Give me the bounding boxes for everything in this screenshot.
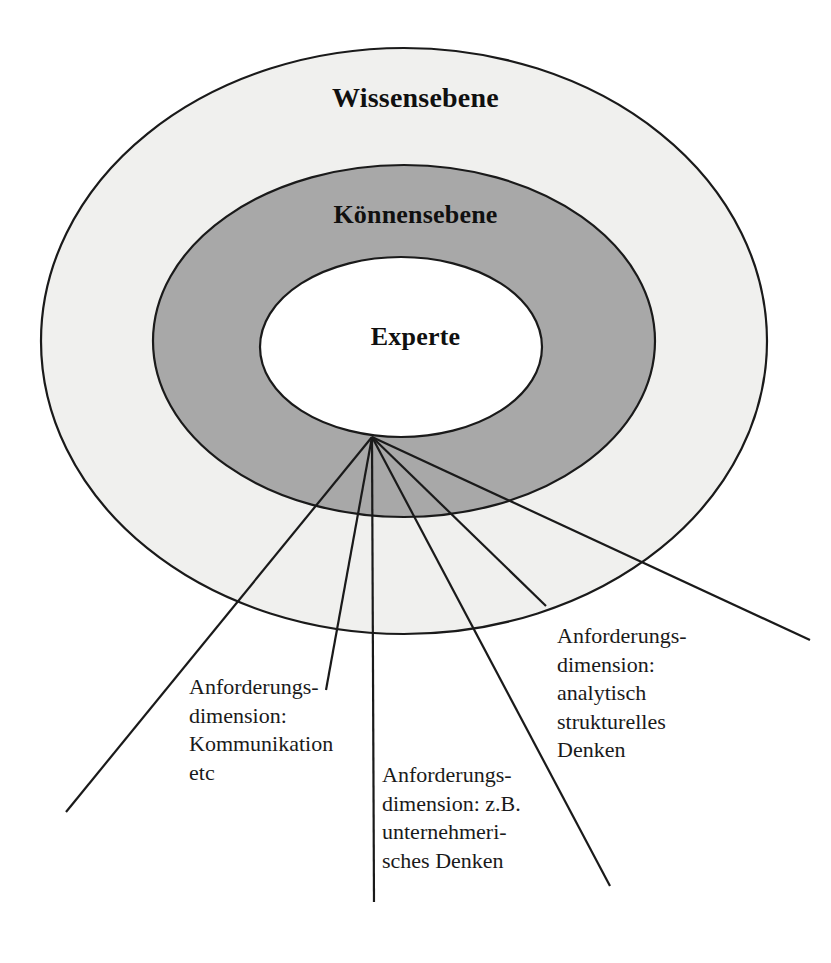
ring-label-koennensebene: Könnensebene [0, 200, 831, 230]
callout-label-analytisch: Anforderungs- dimension: analytisch stru… [557, 622, 762, 765]
callout-label-kommunikation: Anforderungs- dimension: Kommunikation e… [189, 673, 404, 787]
ring-label-wissensebene: Wissensebene [0, 82, 831, 114]
callout-label-unternehmerisch: Anforderungs- dimension: z.B. unternehme… [382, 761, 592, 875]
diagram-canvas: Wissensebene Könnensebene Experte Anford… [0, 0, 831, 963]
ring-label-experte: Experte [0, 322, 831, 352]
